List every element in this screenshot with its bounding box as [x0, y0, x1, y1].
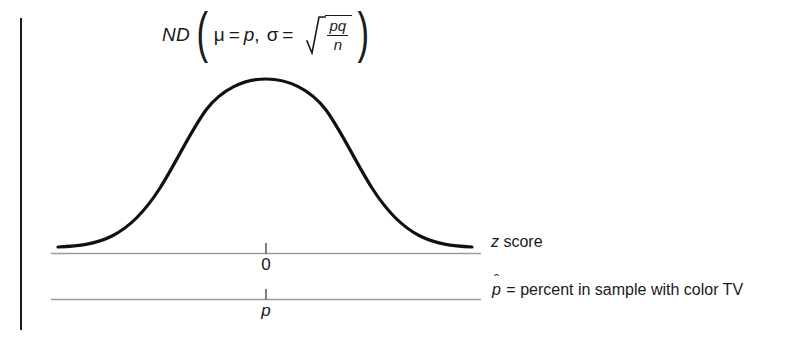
normal-distribution-figure: ND ( μ = p , σ = pq n ) 0 p z score — [0, 0, 811, 345]
z-axis-title-variable: z — [491, 233, 499, 250]
mean-symbol: μ — [214, 25, 225, 44]
bell-curve-path — [58, 79, 472, 247]
z-axis-title: z score — [491, 233, 543, 251]
z-axis-tick-label: 0 — [246, 255, 286, 275]
fraction-numerator: pq — [327, 17, 348, 35]
phat-axis-title-text: = percent in sample with color TV — [506, 281, 743, 298]
circumflex-icon: ˆ — [494, 272, 499, 287]
distribution-formula: ND ( μ = p , σ = pq n ) — [162, 14, 373, 54]
mean-equals-sign: = — [229, 25, 240, 44]
formula-comma: , — [254, 25, 259, 44]
z-axis-title-word: score — [503, 233, 542, 250]
radicand-fraction: pq n — [325, 15, 352, 55]
p-hat-symbol: ˆp — [491, 281, 502, 299]
sd-symbol: σ — [267, 25, 279, 44]
square-root-expression: pq n — [306, 15, 352, 55]
phat-axis-title: ˆp = percent in sample with color TV — [491, 281, 743, 299]
sd-equals-sign: = — [282, 25, 293, 44]
formula-arguments: μ = p , σ = pq n — [212, 14, 354, 54]
mean-value: p — [244, 25, 255, 44]
formula-function-name: ND — [162, 25, 190, 44]
phat-axis-tick-label: p — [246, 301, 286, 321]
fraction-denominator: n — [327, 35, 348, 53]
radical-sign-icon — [306, 15, 326, 55]
